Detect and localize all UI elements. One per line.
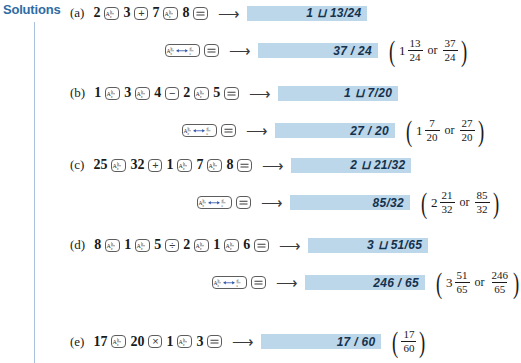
calculator-display: 37 / 24 (258, 43, 378, 58)
fraction-toggle-key-icon[interactable]: Abcde (182, 124, 217, 137)
mixed-whole-part: 3 (446, 275, 453, 291)
svg-text:d: d (222, 199, 224, 203)
operator-key-icon[interactable]: ÷ (165, 239, 179, 252)
fraction-abc-key-icon[interactable]: Abc (194, 239, 209, 252)
numerator: 27 (460, 118, 475, 130)
fraction-abc-key-icon[interactable]: Abc (111, 159, 126, 172)
equals-key-icon[interactable] (204, 44, 219, 57)
svg-text:A: A (214, 280, 218, 286)
right-arrow-icon: ⟶ (261, 195, 283, 210)
fraction-abc-key-icon[interactable]: Abc (105, 87, 120, 100)
display-value: 37 / 24 (333, 44, 372, 58)
equals-key-icon[interactable] (193, 7, 208, 20)
svg-text:c: c (141, 94, 143, 99)
display-value: 246 / 65 (373, 276, 419, 290)
mixed-fraction-part: 1324 (408, 38, 423, 63)
equals-key-icon[interactable] (237, 159, 252, 172)
svg-text:c: c (203, 204, 205, 208)
svg-text:c: c (230, 246, 232, 251)
fraction-toggle-key-icon[interactable]: Abcde (165, 44, 200, 57)
calculator-display: 3 ⊔ 51/65 (308, 238, 428, 253)
solution-row: Abcde⟶27 / 20(1720or2720) (180, 118, 486, 143)
denominator: 65 (455, 282, 470, 295)
display-value: 1 ⊔ 13/24 (306, 6, 361, 20)
equals-key-icon[interactable] (251, 276, 266, 289)
left-paren: ( (406, 119, 412, 142)
solution-row: Abcde⟶246 / 65(35165or24665) (210, 270, 521, 295)
calculator-display: 246 / 65 (305, 275, 425, 290)
keypad-number: 8 (94, 237, 101, 253)
fraction-abc-key-icon[interactable]: Abc (163, 7, 178, 20)
keypad-number: 7 (196, 157, 203, 173)
fraction-toggle-key-icon[interactable]: Abcde (197, 196, 232, 209)
keypad-number: 6 (243, 237, 250, 253)
fraction-abc-key-icon[interactable]: Abc (104, 7, 119, 20)
right-paren: ) (513, 271, 519, 294)
keypad-number: 8 (226, 157, 233, 173)
keypad-number: 2 (183, 85, 190, 101)
operator-key-icon[interactable]: × (148, 335, 162, 348)
svg-text:b: b (169, 9, 171, 14)
svg-text:b: b (171, 47, 173, 51)
fraction-abc-key-icon[interactable]: Abc (105, 239, 120, 252)
equals-key-icon[interactable] (224, 87, 239, 100)
equals-key-icon[interactable] (236, 196, 251, 209)
svg-text:c: c (111, 94, 113, 99)
operator-key-icon[interactable]: − (165, 87, 179, 100)
improper-fraction: 2720 (460, 118, 475, 143)
operator-key-icon[interactable]: + (148, 159, 162, 172)
keypad-number: 20 (130, 334, 144, 350)
right-arrow-icon: ⟶ (249, 86, 271, 101)
svg-text:c: c (171, 52, 173, 56)
equals-key-icon[interactable] (221, 124, 236, 137)
exact-value-note: (22132or8532) (419, 190, 501, 215)
denominator: 24 (443, 50, 458, 63)
display-value: 1 ⊔ 7/20 (344, 86, 392, 100)
exact-value-note: (1760) (390, 329, 427, 354)
left-paren: ( (436, 271, 442, 294)
fraction-abc-key-icon[interactable]: Abc (177, 159, 192, 172)
exact-value-note: (35165or24665) (434, 270, 521, 295)
fraction-abc-key-icon[interactable]: Abc (135, 239, 150, 252)
svg-text:c: c (111, 246, 113, 251)
fraction-abc-key-icon[interactable]: Abc (111, 335, 126, 348)
denominator: 60 (401, 341, 416, 354)
svg-text:A: A (199, 200, 203, 206)
equals-key-icon[interactable] (207, 335, 222, 348)
fraction-abc-key-icon[interactable]: Abc (224, 239, 239, 252)
right-arrow-icon: ⟶ (232, 334, 254, 349)
row-label: (e) (70, 334, 84, 350)
mixed-fraction-part: 2132 (440, 190, 455, 215)
calculator-display: 17 / 60 (261, 334, 381, 349)
operator-key-icon[interactable]: + (134, 7, 148, 20)
calculator-display: 1 ⊔ 7/20 (278, 86, 398, 101)
equals-key-icon[interactable] (254, 239, 269, 252)
fraction-toggle-key-icon[interactable]: Abcde (212, 276, 247, 289)
svg-text:b: b (117, 161, 119, 166)
right-arrow-icon: ⟶ (246, 123, 268, 138)
page-title: Solutions (3, 2, 60, 17)
svg-text:b: b (183, 337, 185, 342)
svg-text:b: b (141, 89, 143, 94)
mixed-fraction-part: 5165 (455, 270, 470, 295)
fraction-abc-key-icon[interactable]: Abc (177, 335, 192, 348)
row-label: (b) (70, 85, 85, 101)
right-arrow-icon: ⟶ (276, 275, 298, 290)
fraction-abc-key-icon[interactable]: Abc (194, 87, 209, 100)
keypad-number: 1 (124, 237, 131, 253)
fraction-abc-key-icon[interactable]: Abc (135, 87, 150, 100)
denominator: 65 (492, 282, 507, 295)
svg-text:d: d (190, 47, 192, 51)
svg-text:b: b (203, 199, 205, 203)
svg-text:d: d (207, 127, 209, 131)
improper-fraction: 8532 (475, 190, 490, 215)
svg-text:c: c (200, 94, 202, 99)
denominator: 32 (440, 202, 455, 215)
fraction-abc-key-icon[interactable]: Abc (207, 159, 222, 172)
keypad-number: 5 (213, 85, 220, 101)
mixed-fraction-part: 720 (425, 118, 440, 143)
calculator-display: 2 ⊔ 21/32 (291, 158, 411, 173)
svg-text:b: b (117, 337, 119, 342)
improper-fraction: 24665 (490, 270, 511, 295)
numerator: 7 (427, 118, 437, 130)
